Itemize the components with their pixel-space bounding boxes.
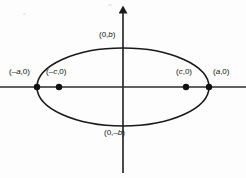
- vertex-left-label: (–a,0): [9, 67, 30, 77]
- focus-right-label: (c,0): [176, 67, 192, 77]
- ellipse-diagram-canvas: (–a,0) (–c,0) (c,0) (a,0) (0,b) (0,–b): [0, 0, 246, 178]
- covertex-bottom-label: (0,–b): [104, 128, 125, 138]
- scan-speck: [108, 4, 112, 6]
- focus-left-dot: [56, 84, 62, 90]
- focus-right-dot: [183, 84, 189, 90]
- scan-speck: [23, 13, 26, 15]
- vertex-left-dot: [34, 84, 40, 90]
- covertex-top-label: (0,b): [99, 30, 115, 40]
- vertex-right-dot: [206, 84, 212, 90]
- vertex-right-label: (a,0): [213, 67, 229, 77]
- focus-left-label: (–c,0): [46, 67, 66, 77]
- ellipse-figure: [0, 0, 246, 178]
